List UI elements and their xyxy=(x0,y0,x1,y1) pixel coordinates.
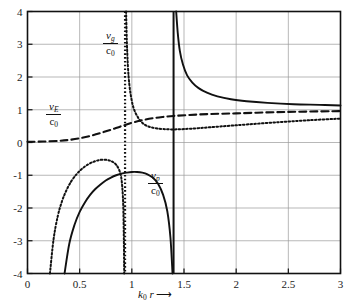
chart-figure: 00.511.522.53 43210-1-2-3-4 vg c0 vE c0 … xyxy=(0,0,357,308)
y-tick-label: -2 xyxy=(13,202,22,214)
annotation-vg-denominator: c0 xyxy=(103,44,118,57)
x-axis-arrow: ⟶ xyxy=(156,288,172,300)
chart-plot-area: 00.511.522.53 43210-1-2-3-4 xyxy=(0,0,357,308)
y-tick-label: -4 xyxy=(13,268,23,280)
x-tick-label: 0.5 xyxy=(73,278,87,290)
y-tick-label: 0 xyxy=(17,137,23,149)
y-tick-label: 1 xyxy=(17,104,23,116)
annotation-vp-numerator: vp xyxy=(148,170,163,184)
x-tick-label: 0 xyxy=(25,278,31,290)
annotation-phase-velocity: vp c0 xyxy=(148,170,163,198)
x-axis-variable: r xyxy=(149,288,153,300)
y-tick-label: 3 xyxy=(17,38,23,50)
annotation-vp-denominator: c0 xyxy=(148,184,163,197)
x-tick-label: 3 xyxy=(338,278,344,290)
x-tick-label: 2.5 xyxy=(281,278,295,290)
y-tick-label: -3 xyxy=(13,235,23,247)
x-tick-label: 2 xyxy=(233,278,239,290)
annotation-vg-numerator: vg xyxy=(103,30,118,44)
annotation-energy-velocity: vE c0 xyxy=(46,101,61,129)
y-tick-label: 2 xyxy=(17,71,23,83)
y-tick-label: 4 xyxy=(17,6,23,18)
annotation-vE-denominator: c0 xyxy=(46,115,61,128)
x-tick-label: 1.5 xyxy=(177,278,191,290)
x-tick-label: 1 xyxy=(129,278,135,290)
annotation-group-velocity: vg c0 xyxy=(103,30,118,58)
y-tick-label: -1 xyxy=(13,169,22,181)
x-axis-subscript: 0 xyxy=(143,293,147,302)
annotation-vE-numerator: vE xyxy=(46,101,61,115)
x-axis-caption: k0 r ⟶ xyxy=(138,288,172,302)
